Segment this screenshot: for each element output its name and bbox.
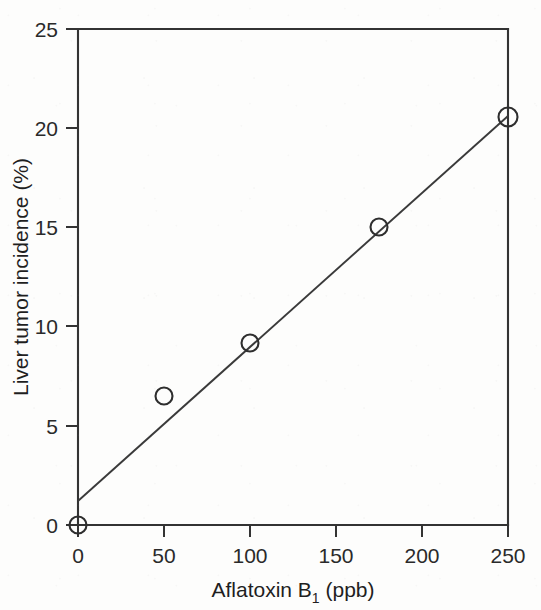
y-tick-label-15: 15	[35, 216, 58, 239]
data-point-markers	[70, 108, 518, 534]
x-axis-title-subscript: 1	[312, 590, 320, 606]
y-tick-label-25: 25	[35, 18, 58, 41]
y-tick-label-5: 5	[46, 415, 58, 438]
y-tick-label-10: 10	[35, 315, 58, 338]
plot-frame	[78, 29, 508, 525]
y-axis-title: Liver tumor incidence (%)	[9, 158, 32, 396]
x-tick-label-50: 50	[152, 544, 175, 567]
data-point-50	[156, 388, 173, 405]
regression-line	[78, 116, 508, 501]
x-axis-ticks	[78, 525, 508, 537]
x-tick-label-150: 150	[318, 544, 353, 567]
figure-root: 0 5 10 15 20 25 0 50 100 150 200 250 A	[0, 0, 541, 610]
y-axis-ticks	[66, 29, 78, 525]
y-tick-label-20: 20	[35, 117, 58, 140]
data-point-0	[70, 517, 87, 534]
x-axis-title-suffix: (ppb)	[320, 578, 375, 601]
x-tick-label-250: 250	[490, 544, 525, 567]
x-axis-tick-labels: 0 50 100 150 200 250	[72, 544, 525, 567]
y-axis-tick-labels: 0 5 10 15 20 25	[35, 18, 58, 537]
data-point-175	[371, 219, 388, 236]
x-axis-title-main: Aflatoxin B	[211, 578, 311, 601]
chart-canvas: 0 5 10 15 20 25 0 50 100 150 200 250 A	[0, 0, 541, 610]
x-tick-label-200: 200	[404, 544, 439, 567]
data-point-250	[499, 108, 518, 127]
x-tick-label-0: 0	[72, 544, 84, 567]
x-tick-label-100: 100	[232, 544, 267, 567]
data-point-100	[242, 335, 259, 352]
x-axis-title: Aflatoxin B1 (ppb)	[211, 578, 374, 606]
y-tick-label-0: 0	[46, 514, 58, 537]
